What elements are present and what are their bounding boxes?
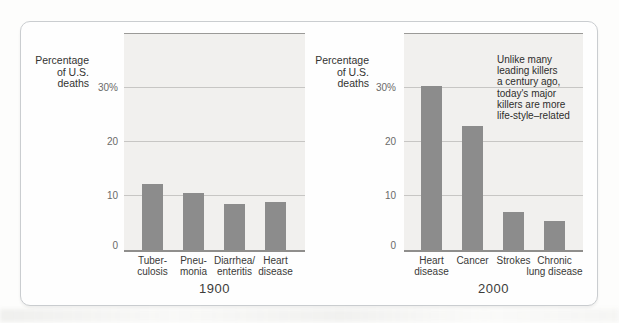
y-tick-label-0: 0 (390, 240, 396, 251)
y-tick-label-10: 10 (385, 190, 396, 201)
bar-heart-disease (421, 86, 442, 250)
x-axis-labels: Heart diseaseCancerStrokesChronic lung d… (404, 255, 583, 281)
bar-strokes (503, 212, 524, 250)
y-tick-label-30: 30% (376, 82, 396, 93)
figure: Percentage of U.S. deaths 30%20100 Tuber… (0, 0, 619, 323)
scan-artifact (0, 309, 619, 322)
chart-annotation: Unlike many leading killers a century ag… (497, 54, 593, 121)
y-axis-ticks: 30%20100 (362, 34, 396, 256)
chart-2000: Percentage of U.S. deaths 30%20100 Unlik… (0, 0, 619, 323)
x-axis-year-label: 2000 (404, 281, 583, 296)
y-axis-title: Percentage of U.S. deaths (290, 55, 369, 90)
y-tick-label-20: 20 (385, 136, 396, 147)
bar-chronic-lung-disease (544, 221, 565, 250)
bar-cancer (462, 126, 483, 250)
x-label-chronic-lung-disease: Chronic lung disease (518, 255, 592, 277)
